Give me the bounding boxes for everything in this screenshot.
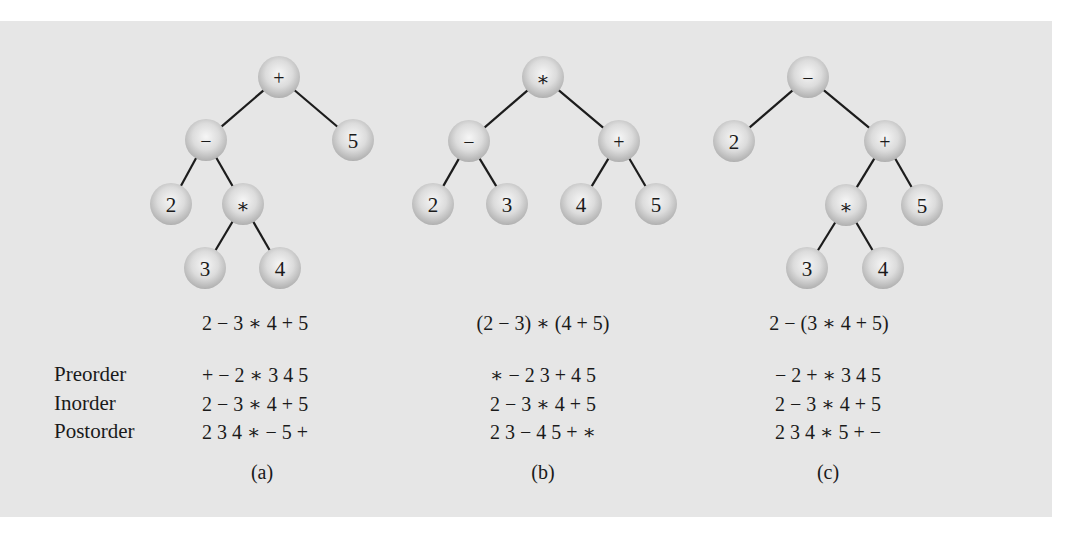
tree-edge	[629, 158, 646, 187]
node-label: ∗	[536, 68, 550, 90]
tree-edge	[216, 157, 233, 186]
tree-edge	[823, 90, 869, 128]
node-label: 2	[729, 130, 740, 154]
expression-a: 2 − 3 ∗ 4 + 5	[202, 313, 308, 333]
tree-edge	[221, 90, 264, 127]
tree-node: −	[448, 120, 490, 162]
tree-edge	[181, 158, 197, 187]
node-label: 4	[275, 257, 286, 281]
tree-node: −	[787, 56, 829, 98]
tree-edge	[484, 90, 528, 128]
node-label: +	[613, 131, 624, 153]
tree-node: 5	[635, 183, 677, 225]
expression-b: (2 − 3) ∗ (4 + 5)	[477, 313, 610, 333]
tree-edge	[443, 158, 459, 186]
node-label: ∗	[236, 195, 250, 217]
node-label: 5	[651, 193, 662, 217]
expression-c: 2 − (3 ∗ 4 + 5)	[769, 313, 888, 333]
preorder-c: − 2 + ∗ 3 4 5	[775, 365, 881, 385]
preorder-b: ∗ − 2 3 + 4 5	[490, 365, 596, 385]
tree-node: ∗	[522, 56, 564, 98]
row-label-postorder: Postorder	[54, 421, 135, 442]
node-label: 2	[428, 193, 439, 217]
tree-edges	[181, 90, 912, 251]
postorder-c: 2 3 4 ∗ 5 + −	[775, 422, 881, 442]
caption-b: (b)	[531, 462, 554, 482]
tree-edge	[856, 158, 874, 188]
tree-node: 3	[786, 247, 828, 289]
node-label: +	[879, 131, 890, 153]
tree-edge	[749, 90, 793, 128]
tree-node: +	[258, 56, 300, 98]
tree-node: 4	[862, 247, 904, 289]
tree-edge	[215, 221, 233, 251]
node-label: ∗	[839, 196, 853, 218]
tree-node: +	[864, 120, 906, 162]
tree-edge	[818, 222, 836, 251]
inorder-b: 2 − 3 ∗ 4 + 5	[490, 394, 596, 414]
node-label: 3	[802, 257, 813, 281]
preorder-a: + − 2 ∗ 3 4 5	[202, 365, 308, 385]
node-label: 5	[348, 129, 359, 153]
tree-edge	[294, 90, 338, 127]
tree-node: 5	[332, 119, 374, 161]
tree-node: −	[185, 119, 227, 161]
postorder-b: 2 3 − 4 5 + ∗	[490, 422, 596, 442]
tree-node: 4	[560, 183, 602, 225]
node-label: 3	[200, 257, 211, 281]
row-label-inorder: Inorder	[54, 393, 116, 414]
node-label: 5	[917, 194, 928, 218]
caption-a: (a)	[251, 462, 273, 482]
tree-node: 5	[901, 184, 943, 226]
node-label: 4	[878, 257, 889, 281]
caption-c: (c)	[817, 462, 839, 482]
tree-node: 3	[486, 183, 528, 225]
postorder-a: 2 3 4 ∗ − 5 +	[202, 422, 308, 442]
tree-node: ∗	[222, 183, 264, 225]
tree-node: +	[598, 120, 640, 162]
node-label: −	[802, 67, 813, 89]
node-label: −	[463, 131, 474, 153]
tree-edge	[895, 158, 912, 187]
inorder-c: 2 − 3 ∗ 4 + 5	[775, 394, 881, 414]
tree-node: 2	[412, 183, 454, 225]
tree-node: ∗	[825, 184, 867, 226]
tree-edge	[856, 222, 873, 251]
tree-edge	[591, 158, 608, 187]
tree-edge	[253, 221, 270, 250]
tree-edge	[479, 158, 496, 187]
row-label-preorder: Preorder	[54, 364, 126, 385]
tree-node: 2	[150, 183, 192, 225]
node-label: 3	[502, 193, 513, 217]
node-label: 4	[576, 193, 587, 217]
inorder-a: 2 − 3 ∗ 4 + 5	[202, 394, 308, 414]
tree-node: 3	[184, 247, 226, 289]
tree-edge	[558, 90, 603, 128]
tree-node: 2	[713, 120, 755, 162]
node-label: −	[200, 130, 211, 152]
node-label: +	[273, 67, 284, 89]
node-label: 2	[166, 193, 177, 217]
tree-node: 4	[259, 247, 301, 289]
